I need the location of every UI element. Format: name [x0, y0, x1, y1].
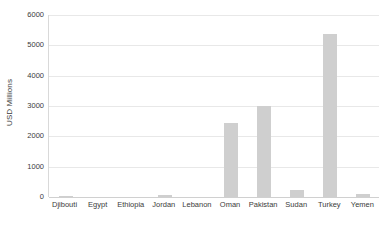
- bar[interactable]: [290, 190, 304, 197]
- bar[interactable]: [356, 194, 370, 197]
- bar[interactable]: [59, 196, 73, 197]
- y-axis-tick-label: 4000: [16, 72, 44, 80]
- bar-slot: [313, 15, 346, 197]
- x-axis-tick-label: Pakistan: [247, 200, 280, 209]
- y-axis-tick-label: 1000: [16, 163, 44, 171]
- x-axis-tick-label: Oman: [213, 200, 246, 209]
- axis-baseline: [49, 197, 379, 198]
- plot-area: [48, 15, 379, 197]
- x-axis-tick-label: Yemen: [346, 200, 379, 209]
- bar-slot: [49, 15, 82, 197]
- x-axis-tick-labels: DjiboutiEgyptEthiopiaJordanLebanonOmanPa…: [48, 200, 379, 209]
- bar-slot: [115, 15, 148, 197]
- y-axis-tick-label: 3000: [16, 102, 44, 110]
- bar-slot: [247, 15, 280, 197]
- y-axis-tick-label: 2000: [16, 133, 44, 141]
- bar-slot: [346, 15, 379, 197]
- bar-slot: [148, 15, 181, 197]
- x-axis-tick-label: Jordan: [147, 200, 180, 209]
- x-axis-tick-label: Sudan: [280, 200, 313, 209]
- y-axis-tick-label: 5000: [16, 42, 44, 50]
- x-axis-tick-label: Lebanon: [180, 200, 213, 209]
- bar-slot: [181, 15, 214, 197]
- bar-series: [49, 15, 379, 197]
- bar[interactable]: [323, 34, 337, 197]
- x-axis-tick-label: Ethiopia: [114, 200, 147, 209]
- y-axis-title-text: USD Millions: [5, 79, 14, 126]
- bar-slot: [280, 15, 313, 197]
- bar[interactable]: [224, 123, 238, 197]
- y-axis-title: USD Millions: [2, 0, 16, 205]
- bar[interactable]: [158, 195, 172, 197]
- y-axis-tick-label: 6000: [16, 11, 44, 19]
- x-axis-tick-label: Djibouti: [48, 200, 81, 209]
- bar-chart: USD Millions 0100020003000400050006000 D…: [0, 0, 383, 225]
- bar-slot: [82, 15, 115, 197]
- bar[interactable]: [257, 106, 271, 197]
- x-axis-tick-label: Turkey: [313, 200, 346, 209]
- y-axis-tick-labels: 0100020003000400050006000: [16, 0, 44, 205]
- y-axis-tick-label: 0: [16, 193, 44, 201]
- x-axis-tick-label: Egypt: [81, 200, 114, 209]
- bar-slot: [214, 15, 247, 197]
